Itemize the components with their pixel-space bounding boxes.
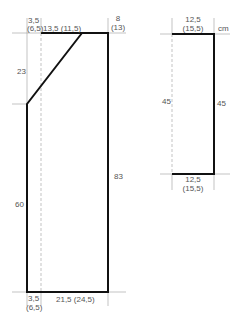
- sleeve-piece-outline: [172, 34, 214, 174]
- total-height-label: 83: [114, 172, 123, 181]
- bottom-left-width-line2: (6,5): [26, 303, 43, 312]
- neck-depth-label: 23: [17, 67, 26, 76]
- guide-lines: [12, 18, 230, 306]
- shoulder-width-line1: 8: [116, 14, 121, 23]
- body-piece-outline: [27, 33, 108, 292]
- schematic-diagram: 3,5 (6,5) 13,5 (11,5) 8 (13) 23 60 83 3,…: [0, 0, 244, 321]
- sleeve-bottom-width-line2: (15,5): [183, 184, 204, 193]
- sleeve-top-width-line2: (15,5): [183, 24, 204, 33]
- shoulder-width-line2: (13): [111, 23, 126, 32]
- sleeve-right-height-label: 45: [217, 99, 226, 108]
- sleeve-left-height-label: 45: [162, 97, 171, 106]
- top-left-width-line2: (6,5): [27, 24, 44, 33]
- center-dashed-lines: [41, 33, 172, 292]
- lower-height-label: 60: [15, 200, 24, 209]
- sleeve-bottom-width-line1: 12,5: [185, 175, 201, 184]
- unit-label: cm: [218, 24, 229, 33]
- bottom-width-label: 21,5 (24,5): [56, 295, 95, 304]
- bottom-left-width-line1: 3,5: [28, 294, 40, 303]
- neck-width-label: 13,5 (11,5): [43, 24, 81, 33]
- sleeve-top-width-line1: 12,5: [185, 15, 201, 24]
